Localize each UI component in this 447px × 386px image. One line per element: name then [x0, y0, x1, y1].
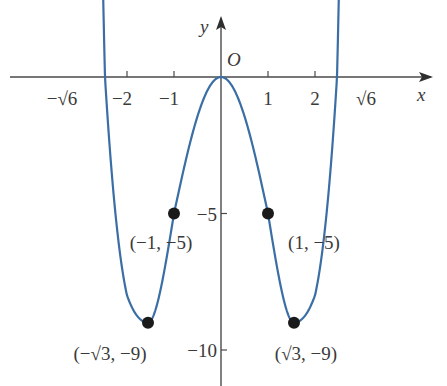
data-point [288, 317, 300, 329]
data-point [142, 317, 154, 329]
point-label: (−1, −5) [130, 232, 193, 254]
x-axis-label: x [416, 84, 426, 105]
point-label: (1, −5) [288, 232, 340, 254]
x-tick-label: −2 [112, 88, 132, 109]
y-axis-label: y [198, 16, 209, 37]
data-point [262, 208, 274, 220]
x-tick-label: 2 [310, 88, 320, 109]
point-label: (−√3, −9) [73, 343, 146, 365]
x-special-label: −√6 [47, 88, 78, 109]
origin-label: O [227, 49, 241, 70]
x-special-label: √6 [356, 88, 376, 109]
tick-labels: −2−112−√6√6−5−10 [47, 88, 376, 361]
x-tick-label: 1 [263, 88, 273, 109]
y-tick-label: −10 [187, 340, 217, 361]
function-graph: −2−112−√6√6−5−10 (−√3, −9)(−1, −5)(1, −5… [0, 0, 447, 386]
x-tick-label: −1 [159, 88, 179, 109]
data-point [168, 208, 180, 220]
point-label: (√3, −9) [275, 343, 337, 365]
y-tick-label: −5 [197, 204, 217, 225]
